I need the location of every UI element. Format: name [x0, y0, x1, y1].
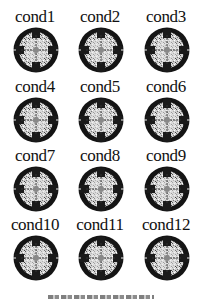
panel-label: cond12 — [133, 216, 199, 233]
panel-label: cond11 — [67, 216, 133, 233]
caption-text — [48, 295, 154, 299]
scalp-map-icon — [144, 97, 190, 143]
figure-caption — [48, 293, 154, 300]
scalp-map-icon — [13, 166, 59, 212]
scalp-map-icon — [13, 27, 59, 73]
panel-label: cond5 — [67, 78, 133, 95]
scalp-map-icon — [144, 235, 190, 281]
panel-cond9: cond9 — [133, 147, 199, 215]
panel-label: cond8 — [67, 147, 133, 164]
scalp-map-icon — [144, 166, 190, 212]
scalp-map-icon — [13, 235, 59, 281]
panel-cond2: cond2 — [67, 8, 133, 76]
panel-label: cond9 — [133, 147, 199, 164]
panel-cond3: cond3 — [133, 8, 199, 76]
panel-cond1: cond1 — [2, 8, 68, 76]
panel-cond8: cond8 — [67, 147, 133, 215]
panel-cond5: cond5 — [67, 78, 133, 146]
panel-label: cond6 — [133, 78, 199, 95]
scalp-map-icon — [78, 235, 124, 281]
panel-cond10: cond10 — [2, 216, 68, 284]
scalp-map-icon — [144, 27, 190, 73]
panel-cond11: cond11 — [67, 216, 133, 284]
panel-label: cond1 — [2, 8, 68, 25]
panel-cond4: cond4 — [2, 78, 68, 146]
scalp-map-icon — [78, 166, 124, 212]
panel-label: cond2 — [67, 8, 133, 25]
panel-label: cond10 — [2, 216, 68, 233]
panel-label: cond3 — [133, 8, 199, 25]
panel-cond12: cond12 — [133, 216, 199, 284]
panel-cond7: cond7 — [2, 147, 68, 215]
panel-cond6: cond6 — [133, 78, 199, 146]
scalp-map-icon — [13, 97, 59, 143]
topography-grid: cond1 cond2 cond3 cond4 cond5 cond6 cond… — [0, 0, 201, 300]
panel-label: cond4 — [2, 78, 68, 95]
scalp-map-icon — [78, 27, 124, 73]
panel-label: cond7 — [2, 147, 68, 164]
scalp-map-icon — [78, 97, 124, 143]
